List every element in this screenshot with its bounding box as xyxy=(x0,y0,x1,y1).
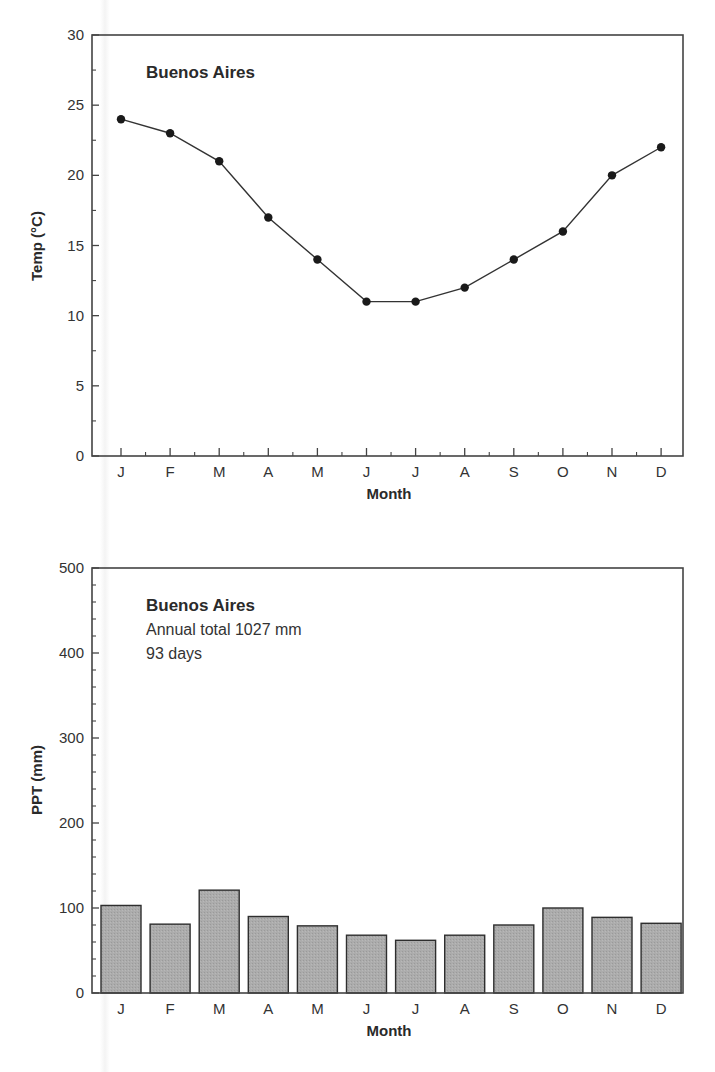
ppt-bar xyxy=(494,925,534,993)
temp-x-tick-label: N xyxy=(607,463,618,480)
temp-data-point xyxy=(215,157,223,165)
ppt-x-tick-label: M xyxy=(311,1000,324,1017)
temp-data-point xyxy=(411,297,419,305)
ppt-y-tick-label: 500 xyxy=(59,559,84,576)
temp-data-point xyxy=(166,129,174,137)
ppt-bar xyxy=(396,940,436,993)
temp-data-point xyxy=(510,255,518,263)
temp-data-point xyxy=(657,143,665,151)
temp-x-tick-label: A xyxy=(460,463,470,480)
ppt-rain-days: 93 days xyxy=(146,645,202,662)
ppt-y-tick-label: 400 xyxy=(59,644,84,661)
temp-data-point xyxy=(117,115,125,123)
ppt-y-tick-label: 200 xyxy=(59,814,84,831)
ppt-bar xyxy=(543,908,583,993)
ppt-x-tick-label: A xyxy=(263,1000,273,1017)
temp-x-tick-label: A xyxy=(263,463,273,480)
temp-x-tick-label: O xyxy=(557,463,569,480)
temperature-chart: 051015202530 JFMAMJJASOND Buenos Aires M… xyxy=(28,26,683,502)
ppt-x-tick-label: A xyxy=(460,1000,470,1017)
temp-chart-title: Buenos Aires xyxy=(146,63,255,82)
ppt-bar xyxy=(150,924,190,993)
ppt-annual-total: Annual total 1027 mm xyxy=(146,621,302,638)
ppt-x-axis-title: Month xyxy=(367,1022,412,1039)
ppt-y-tick-label: 300 xyxy=(59,729,84,746)
precipitation-chart: 0100200300400500 JFMAMJJASOND Buenos Air… xyxy=(28,559,683,1039)
temp-y-tick-label: 10 xyxy=(67,307,84,324)
temp-y-tick-label: 30 xyxy=(67,26,84,43)
ppt-bar xyxy=(199,890,239,993)
ppt-bar xyxy=(641,923,681,993)
temp-y-tick-label: 20 xyxy=(67,166,84,183)
ppt-bar xyxy=(297,926,337,993)
ppt-bar xyxy=(445,935,485,993)
temp-y-axis-title: Temp (°C) xyxy=(28,211,45,281)
ppt-y-axis-title: PPT (mm) xyxy=(28,745,45,815)
temp-data-point xyxy=(461,283,469,291)
temp-y-tick-label: 25 xyxy=(67,96,84,113)
temp-data-point xyxy=(559,227,567,235)
temp-data-point xyxy=(313,255,321,263)
temp-plot-frame xyxy=(92,35,683,456)
temp-x-tick-label: J xyxy=(363,463,371,480)
temp-x-tick-label: D xyxy=(656,463,667,480)
ppt-bar xyxy=(592,917,632,993)
temp-line-series xyxy=(117,115,666,306)
ppt-x-tick-label: J xyxy=(412,1000,420,1017)
temp-data-point xyxy=(608,171,616,179)
temp-x-tick-label: J xyxy=(117,463,125,480)
ppt-x-tick-label: O xyxy=(557,1000,569,1017)
temp-x-tick-label: M xyxy=(213,463,226,480)
ppt-y-axis: 0100200300400500 xyxy=(59,559,99,1001)
ppt-x-tick-label: S xyxy=(509,1000,519,1017)
charts-canvas: 051015202530 JFMAMJJASOND Buenos Aires M… xyxy=(0,0,715,1072)
temp-data-point xyxy=(362,297,370,305)
ppt-bar xyxy=(347,935,387,993)
temp-y-axis: 051015202530 xyxy=(67,26,99,464)
temp-data-point xyxy=(264,213,272,221)
ppt-x-tick-label: F xyxy=(166,1000,175,1017)
temp-y-tick-label: 15 xyxy=(67,237,84,254)
temp-line xyxy=(121,119,661,301)
ppt-chart-title: Buenos Aires xyxy=(146,596,255,615)
ppt-bar xyxy=(101,905,141,993)
ppt-bar-series xyxy=(101,890,681,993)
temp-y-tick-label: 5 xyxy=(76,377,84,394)
temp-x-tick-label: F xyxy=(166,463,175,480)
ppt-x-tick-label: J xyxy=(117,1000,125,1017)
temp-x-tick-label: S xyxy=(509,463,519,480)
ppt-y-tick-label: 100 xyxy=(59,899,84,916)
ppt-y-tick-label: 0 xyxy=(76,984,84,1001)
temp-x-axis-title: Month xyxy=(367,485,412,502)
ppt-bar xyxy=(248,917,288,994)
ppt-x-axis: JFMAMJJASOND xyxy=(117,1000,666,1017)
ppt-x-tick-label: J xyxy=(363,1000,371,1017)
temp-x-tick-label: M xyxy=(311,463,324,480)
ppt-x-tick-label: M xyxy=(213,1000,226,1017)
temp-y-tick-label: 0 xyxy=(76,447,84,464)
temp-x-axis: JFMAMJJASOND xyxy=(117,448,666,480)
temp-x-tick-label: J xyxy=(412,463,420,480)
ppt-x-tick-label: N xyxy=(607,1000,618,1017)
ppt-x-tick-label: D xyxy=(656,1000,667,1017)
